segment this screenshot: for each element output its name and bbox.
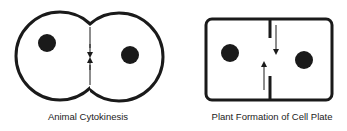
animal-cell — [16, 12, 163, 101]
cytokinesis-diagram: Animal Cytokinesis Plant Formation of Ce… — [0, 0, 347, 131]
animal-right-nucleus — [121, 46, 139, 64]
plant-cell — [206, 19, 332, 100]
animal-caption: Animal Cytokinesis — [48, 111, 128, 122]
plant-right-nucleus — [295, 51, 313, 69]
animal-left-nucleus — [38, 34, 56, 52]
plant-caption: Plant Formation of Cell Plate — [212, 111, 333, 122]
plant-left-nucleus — [221, 44, 239, 62]
